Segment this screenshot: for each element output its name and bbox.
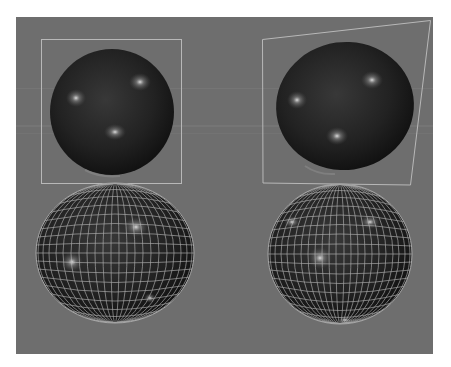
sphere-bottom-left[interactable]: [36, 182, 194, 323]
sphere-bottom-right[interactable]: [268, 183, 412, 324]
specular-highlight: [326, 127, 348, 145]
3d-viewport-canvas[interactable]: [0, 0, 451, 367]
specular-highlight: [361, 71, 383, 89]
specular-highlight: [104, 124, 126, 140]
specular-highlight: [124, 217, 148, 237]
specular-highlight: [129, 73, 151, 91]
specular-highlight: [308, 247, 332, 269]
specular-highlight: [287, 91, 307, 109]
sphere-body: [50, 49, 174, 175]
specular-highlight: [66, 89, 86, 107]
